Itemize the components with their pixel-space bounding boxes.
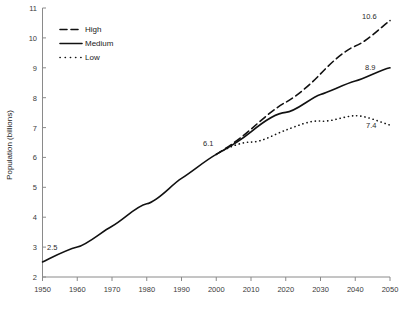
y-tick-label-4: 4 [33,213,37,222]
x-tick-label-2000: 2000 [208,285,225,294]
x-tick-label-2050: 2050 [382,285,399,294]
y-axis-title: Population (billions) [5,110,14,180]
series-line-low [216,116,390,155]
annotation-1950-value: 2.5 [47,243,57,252]
data-annotations: 2.5 6.1 10.6 8.9 7.4 [47,12,377,252]
annotation-high-2050-value: 10.6 [362,12,377,21]
y-tick-label-11: 11 [29,4,37,13]
x-tick-label-1950: 1950 [34,285,51,294]
x-tick-label-2020: 2020 [277,285,294,294]
population-projection-chart: 2 3 4 5 6 7 8 9 10 11 1950 1960 19 [0,0,403,309]
x-tick-label-2010: 2010 [243,285,260,294]
x-tick-label-1990: 1990 [173,285,190,294]
legend-label-low: Low [85,53,100,62]
series-line-high [216,21,390,155]
y-tick-label-2: 2 [33,273,37,282]
legend-label-high: High [85,25,101,34]
chart-legend: High Medium Low [60,25,114,62]
x-tick-label-1960: 1960 [69,285,86,294]
y-tick-label-10: 10 [29,34,37,43]
x-axis-ticks: 1950 1960 1970 1980 1990 2000 2010 2020 … [34,277,398,294]
legend-item-low[interactable]: Low [60,53,100,62]
y-tick-label-6: 6 [33,153,37,162]
x-tick-label-1970: 1970 [104,285,121,294]
series-line-medium [43,68,391,262]
axes-group [43,8,391,277]
legend-item-medium[interactable]: Medium [60,39,114,48]
legend-label-medium: Medium [85,39,114,48]
annotation-medium-2050-value: 8.9 [365,63,375,72]
legend-item-high[interactable]: High [60,25,101,34]
y-tick-label-8: 8 [33,94,37,103]
annotation-low-2050-value: 7.4 [366,121,376,130]
x-tick-label-2040: 2040 [347,285,364,294]
y-tick-label-5: 5 [33,183,37,192]
annotation-2000-value: 6.1 [203,139,213,148]
y-axis-ticks: 2 3 4 5 6 7 8 9 10 11 [29,4,46,282]
x-tick-label-2030: 2030 [312,285,329,294]
chart-canvas: 2 3 4 5 6 7 8 9 10 11 1950 1960 19 [0,0,403,309]
y-tick-label-3: 3 [33,243,37,252]
y-tick-label-7: 7 [33,124,37,133]
y-tick-label-9: 9 [33,64,37,73]
x-tick-label-1980: 1980 [138,285,155,294]
